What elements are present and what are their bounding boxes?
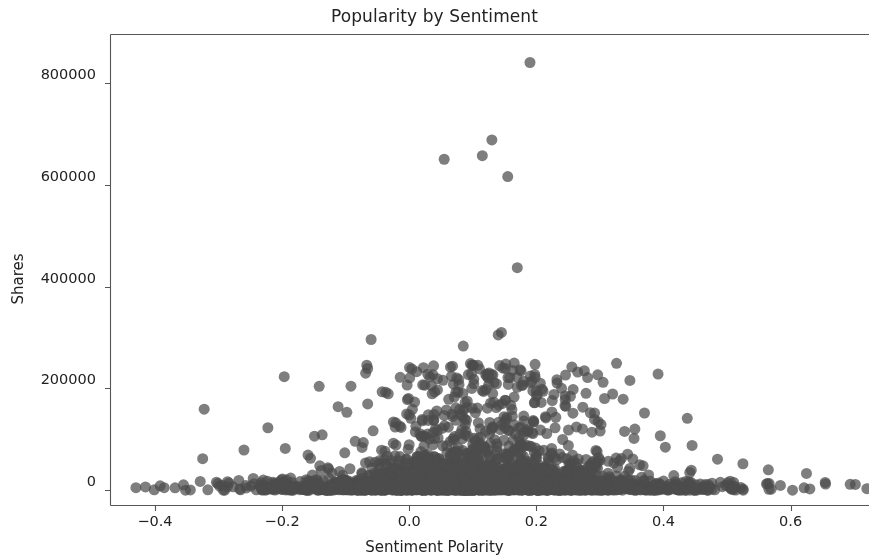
scatter-plot-canvas — [0, 0, 869, 560]
x-tick-label: 0.4 — [652, 513, 675, 529]
y-tick-label: 200000 — [0, 371, 96, 387]
x-tick-label: −0.4 — [137, 513, 172, 529]
x-tick-label: −0.2 — [265, 513, 300, 529]
scatter-plot-figure: Popularity by Sentiment Sentiment Polari… — [0, 0, 869, 560]
chart-title: Popularity by Sentiment — [0, 6, 869, 26]
y-tick-label: 800000 — [0, 66, 96, 82]
y-tick-label: 0 — [0, 473, 96, 489]
x-tick-label: 0.0 — [398, 513, 421, 529]
y-tick-label: 600000 — [0, 168, 96, 184]
x-axis-label: Sentiment Polarity — [0, 538, 869, 556]
x-tick-label: 0.6 — [779, 513, 802, 529]
x-tick-label: 0.2 — [525, 513, 548, 529]
y-tick-label: 400000 — [0, 270, 96, 286]
